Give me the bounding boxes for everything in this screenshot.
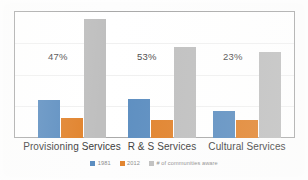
legend-swatch-icon	[120, 161, 125, 166]
chart-legend: 19812012# of communities aware	[0, 160, 308, 166]
category-axis: Provisioning ServicesR & S ServicesCultu…	[14, 141, 295, 157]
legend-label: 2012	[127, 160, 140, 166]
bar-data-label: 53%	[137, 51, 157, 62]
bar	[151, 120, 173, 138]
bar	[213, 111, 235, 138]
bar-data-label: 47%	[48, 51, 68, 62]
legend-swatch-icon	[149, 161, 154, 166]
legend-swatch-icon	[90, 161, 95, 166]
legend-label: 1981	[98, 160, 111, 166]
bar	[174, 47, 196, 138]
grouped-bar-chart: 47%53%23% Provisioning ServicesR & S Ser…	[0, 0, 308, 180]
bar	[259, 52, 281, 138]
plot-area: 47%53%23%	[14, 11, 295, 138]
bar-group	[38, 11, 106, 138]
legend-item[interactable]: 2012	[120, 160, 140, 166]
bar-group	[213, 11, 281, 138]
bar	[128, 99, 150, 138]
bar	[84, 19, 106, 138]
legend-item[interactable]: 1981	[90, 160, 110, 166]
bar	[38, 100, 60, 138]
bar-data-label: 23%	[223, 51, 243, 62]
bar-group	[128, 11, 196, 138]
bar	[236, 120, 258, 138]
bar	[61, 118, 83, 138]
category-label: Cultural Services	[187, 141, 307, 152]
legend-label: # of communities aware	[156, 160, 217, 166]
legend-item[interactable]: # of communities aware	[149, 160, 218, 166]
